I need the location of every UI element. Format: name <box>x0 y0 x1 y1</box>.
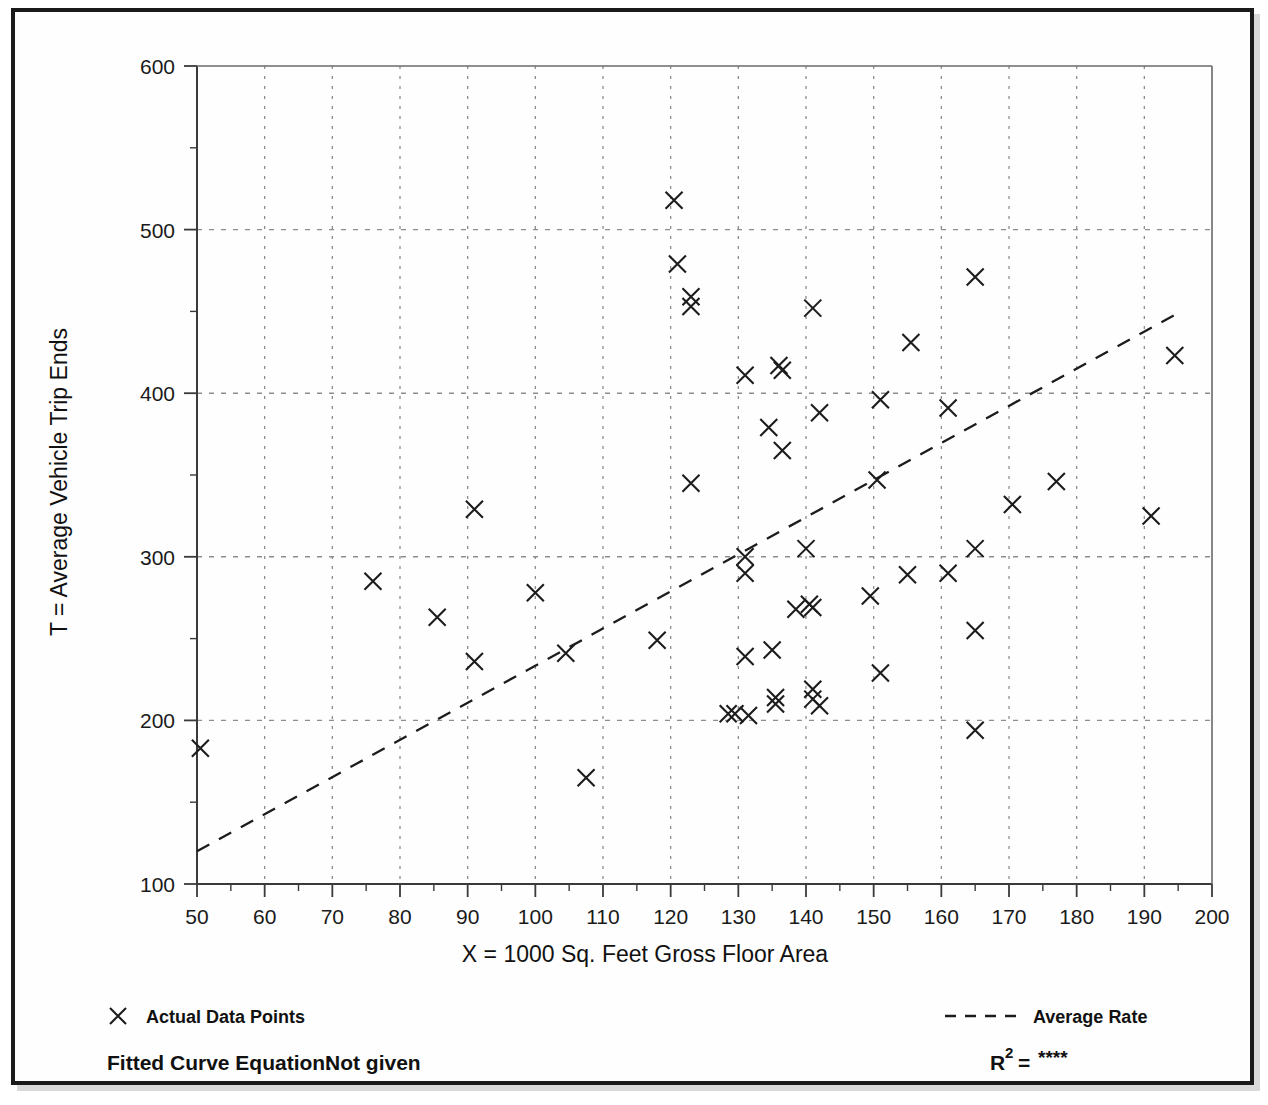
x-marker-icon <box>578 769 595 786</box>
data-point-marker <box>666 192 683 209</box>
y-tick-label: 600 <box>140 55 175 78</box>
x-marker-icon <box>902 334 919 351</box>
data-point-marker <box>804 681 821 698</box>
x-tick-label: 160 <box>924 905 959 928</box>
data-point-marker <box>682 475 699 492</box>
data-point-marker <box>669 255 686 272</box>
x-tick-label: 190 <box>1127 905 1162 928</box>
data-point-marker <box>862 588 879 605</box>
chart-page: quadratic 506070809010011012013014015016… <box>0 0 1268 1105</box>
x-marker-icon <box>1048 473 1065 490</box>
x-marker-icon <box>429 609 446 626</box>
data-point-marker <box>429 609 446 626</box>
data-point-marker <box>869 471 886 488</box>
plot-wrapper: 5060708090100110120130140150160170180190… <box>15 12 1258 1089</box>
data-point-marker <box>811 697 828 714</box>
data-point-marker <box>804 300 821 317</box>
x-tick-label: 130 <box>721 905 756 928</box>
x-marker-icon <box>811 404 828 421</box>
data-points-layer <box>192 192 1183 787</box>
y-tick-label: 300 <box>140 546 175 569</box>
r-squared-value: **** <box>1038 1047 1068 1068</box>
data-point-marker <box>760 419 777 436</box>
x-marker-icon <box>737 367 754 384</box>
x-marker-icon <box>1143 507 1160 524</box>
figure-frame: 5060708090100110120130140150160170180190… <box>11 8 1254 1085</box>
x-marker-icon <box>967 269 984 286</box>
data-point-marker <box>649 632 666 649</box>
x-tick-label: 60 <box>253 905 276 928</box>
data-point-marker <box>940 565 957 582</box>
legend-data-points-label: Actual Data Points <box>146 1007 305 1027</box>
fitted-curve-value: Not given <box>325 1051 421 1074</box>
data-point-marker <box>192 740 209 757</box>
data-point-marker <box>967 269 984 286</box>
legend-data-points: Actual Data Points <box>110 1007 305 1027</box>
data-point-marker <box>682 298 699 315</box>
r-squared-block: R 2 = **** <box>990 1044 1068 1074</box>
data-point-marker <box>364 573 381 590</box>
x-marker-icon <box>869 471 886 488</box>
x-marker-icon <box>770 357 787 374</box>
x-marker-icon <box>774 442 791 459</box>
x-tick-label: 170 <box>991 905 1026 928</box>
x-tick-label: 140 <box>788 905 823 928</box>
x-tick-label: 80 <box>388 905 411 928</box>
axis-layer <box>197 66 1212 884</box>
x-tick-label: 50 <box>185 905 208 928</box>
x-marker-icon <box>774 362 791 379</box>
data-point-marker <box>798 540 815 557</box>
data-point-marker <box>811 404 828 421</box>
x-marker-icon <box>110 1008 126 1024</box>
x-marker-icon <box>466 653 483 670</box>
data-point-marker <box>466 653 483 670</box>
x-tick-label: 70 <box>321 905 344 928</box>
legend-average-rate-label: Average Rate <box>1033 1007 1147 1027</box>
x-marker-icon <box>682 298 699 315</box>
x-marker-icon <box>764 642 781 659</box>
fitted-curve-label: Fitted Curve Equation: <box>107 1051 332 1074</box>
x-marker-icon <box>364 573 381 590</box>
data-point-marker <box>1166 347 1183 364</box>
x-marker-icon <box>682 475 699 492</box>
x-marker-icon <box>862 588 879 605</box>
y-axis-title: T = Average Vehicle Trip Ends <box>46 328 72 636</box>
data-point-marker <box>740 707 757 724</box>
x-marker-icon <box>666 192 683 209</box>
legend-average-rate: Average Rate <box>945 1007 1147 1027</box>
x-marker-icon <box>740 707 757 724</box>
data-point-marker <box>764 642 781 659</box>
data-point-marker <box>1048 473 1065 490</box>
r-squared-superscript: 2 <box>1005 1044 1013 1061</box>
x-marker-icon <box>967 540 984 557</box>
x-tick-label: 120 <box>653 905 688 928</box>
x-marker-icon <box>649 632 666 649</box>
x-marker-icon <box>760 419 777 436</box>
data-point-marker <box>682 288 699 305</box>
x-tick-label: 200 <box>1194 905 1229 928</box>
data-point-marker <box>940 399 957 416</box>
x-marker-icon <box>682 288 699 305</box>
x-marker-icon <box>1004 496 1021 513</box>
y-tick-label: 100 <box>140 873 175 896</box>
r-squared-label: R <box>990 1051 1005 1074</box>
x-marker-icon <box>466 501 483 518</box>
x-marker-icon <box>872 391 889 408</box>
data-point-marker <box>737 367 754 384</box>
x-marker-icon <box>192 740 209 757</box>
tick-label-layer: 5060708090100110120130140150160170180190… <box>140 55 1230 928</box>
x-marker-icon <box>804 681 821 698</box>
x-marker-icon <box>967 722 984 739</box>
x-marker-icon <box>737 648 754 665</box>
data-point-marker <box>774 362 791 379</box>
data-point-marker <box>737 648 754 665</box>
x-marker-icon <box>737 565 754 582</box>
x-marker-icon <box>872 664 889 681</box>
data-point-marker <box>967 622 984 639</box>
y-tick-label: 500 <box>140 219 175 242</box>
scatter-plot-svg: 5060708090100110120130140150160170180190… <box>15 12 1258 1089</box>
data-point-marker <box>872 391 889 408</box>
data-point-marker <box>902 334 919 351</box>
data-point-marker <box>1143 507 1160 524</box>
data-point-marker <box>872 664 889 681</box>
